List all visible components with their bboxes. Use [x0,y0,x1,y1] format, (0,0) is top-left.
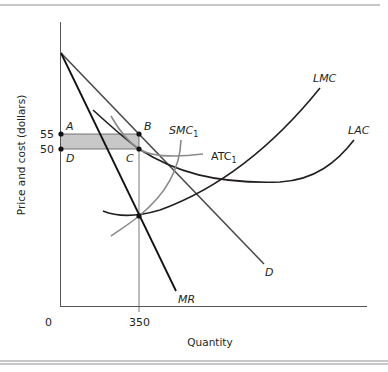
smc1-label: SMC1 [169,124,198,139]
profit-area [61,134,139,149]
point-c-marker [136,146,141,151]
point-c-label: C [126,152,134,165]
y-tick-55: 55 [40,128,54,141]
point-d-marker [58,146,63,151]
smc1-curve [111,140,181,236]
point-a-label: A [65,120,74,133]
lac-label: LAC [348,124,370,137]
x-axis-title: Quantity [187,336,232,348]
demand-label: D [265,266,273,279]
figure-frame: A B C D 55 50 0 350 Quantity Price and c… [0,0,388,372]
origin-label: 0 [45,316,52,329]
point-b-label: B [144,120,152,133]
atc1-label: ATC1 [211,150,237,165]
y-tick-50: 50 [40,143,54,156]
lmc-label: LMC [313,72,337,85]
point-d-label: D [66,152,74,165]
y-axis-title: Price and cost (dollars) [15,95,27,216]
chart-canvas: A B C D 55 50 0 350 Quantity Price and c… [0,0,388,372]
x-tick-350: 350 [129,316,150,329]
mr-label: MR [178,293,195,306]
mr-curve [61,53,176,291]
point-a-marker [58,131,63,136]
mr-mc-intersection-marker [136,213,141,218]
point-b-marker [136,131,141,136]
